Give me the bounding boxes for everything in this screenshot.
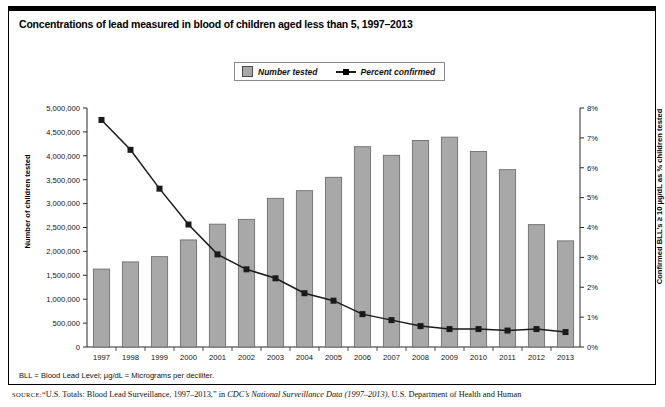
plot-area: 0500,0001,000,0001,500,0002,000,0002,500… bbox=[9, 7, 657, 386]
line-marker bbox=[505, 328, 511, 334]
svg-text:6%: 6% bbox=[587, 164, 598, 173]
bar bbox=[296, 191, 312, 347]
bar bbox=[151, 257, 167, 347]
svg-text:2,500,000: 2,500,000 bbox=[46, 223, 80, 232]
x-axis-tick-label: 2007 bbox=[383, 353, 400, 362]
y-axis-left-title: Number of children tested bbox=[23, 132, 32, 272]
line-marker bbox=[244, 266, 250, 272]
svg-text:500,000: 500,000 bbox=[53, 319, 80, 328]
figure-container: Concentrations of lead measured in blood… bbox=[8, 6, 656, 385]
bar bbox=[180, 240, 196, 347]
bar bbox=[267, 198, 283, 347]
svg-text:3,000,000: 3,000,000 bbox=[46, 199, 80, 208]
x-axis-tick-label: 1997 bbox=[93, 353, 110, 362]
svg-text:4,000,000: 4,000,000 bbox=[46, 152, 80, 161]
svg-text:2%: 2% bbox=[587, 283, 598, 292]
line-marker bbox=[534, 326, 540, 332]
svg-text:1,000,000: 1,000,000 bbox=[46, 295, 80, 304]
x-axis-tick-label: 2004 bbox=[296, 353, 313, 362]
x-axis-tick-label: 2009 bbox=[441, 353, 458, 362]
bar bbox=[441, 137, 457, 347]
x-axis-tick-label: 2003 bbox=[267, 353, 284, 362]
svg-text:5,000,000: 5,000,000 bbox=[46, 104, 80, 113]
svg-text:4%: 4% bbox=[587, 223, 598, 232]
svg-text:5%: 5% bbox=[587, 193, 598, 202]
x-axis-tick-label: 2010 bbox=[470, 353, 487, 362]
bar bbox=[93, 269, 109, 347]
line-marker bbox=[447, 326, 453, 332]
footnote-text: BLL = Blood Lead Level; µg/dL = Microgra… bbox=[19, 371, 214, 380]
svg-text:7%: 7% bbox=[587, 134, 598, 143]
x-axis-tick-label: 2011 bbox=[499, 353, 515, 362]
line-marker bbox=[302, 290, 308, 296]
svg-text:0%: 0% bbox=[587, 343, 598, 352]
source-part2: , U.S. Department of Health and Human bbox=[387, 390, 521, 399]
svg-text:2,000,000: 2,000,000 bbox=[46, 247, 80, 256]
line-marker bbox=[563, 329, 569, 335]
line-marker bbox=[186, 222, 192, 228]
bar bbox=[325, 177, 341, 347]
x-axis-tick-label: 2012 bbox=[528, 353, 545, 362]
bar bbox=[238, 219, 254, 347]
source-italic: CDC’s National Surveillance Data (1997–2… bbox=[227, 390, 387, 399]
line-marker bbox=[157, 186, 163, 192]
svg-text:8%: 8% bbox=[587, 104, 598, 113]
x-axis-tick-label: 2013 bbox=[557, 353, 574, 362]
x-axis-tick-label: 2001 bbox=[209, 353, 226, 362]
svg-text:3,500,000: 3,500,000 bbox=[46, 176, 80, 185]
line-marker bbox=[331, 298, 337, 304]
bar bbox=[209, 224, 225, 347]
svg-text:4,500,000: 4,500,000 bbox=[46, 128, 80, 137]
line-marker bbox=[476, 326, 482, 332]
x-axis-tick-label: 1999 bbox=[151, 353, 168, 362]
svg-text:0: 0 bbox=[76, 343, 80, 352]
bar bbox=[470, 151, 486, 347]
x-axis-tick-label: 2002 bbox=[238, 353, 255, 362]
x-axis-tick-label: 2005 bbox=[325, 353, 342, 362]
bar bbox=[412, 141, 428, 347]
line-marker bbox=[215, 251, 221, 257]
y-axis-right-title: Confirmed BLL's ≥ 10 µg/dL as % children… bbox=[655, 107, 664, 287]
x-axis-tick-label: 2006 bbox=[354, 353, 371, 362]
source-citation: SOURCE:“U.S. Totals: Blood Lead Surveill… bbox=[12, 390, 521, 399]
line-marker bbox=[389, 317, 395, 323]
x-axis-tick-label: 2000 bbox=[180, 353, 197, 362]
line-marker bbox=[360, 311, 366, 317]
x-axis-tick-label: 1998 bbox=[122, 353, 139, 362]
line-marker bbox=[273, 275, 279, 281]
svg-text:1,500,000: 1,500,000 bbox=[46, 271, 80, 280]
line-marker bbox=[99, 117, 105, 123]
line-marker bbox=[128, 147, 134, 153]
source-keyword: SOURCE: bbox=[12, 391, 42, 398]
bar bbox=[499, 170, 515, 347]
svg-text:1%: 1% bbox=[587, 313, 598, 322]
source-part1: “U.S. Totals: Blood Lead Surveillance, 1… bbox=[42, 390, 227, 399]
line-marker bbox=[418, 323, 424, 329]
x-axis-tick-label: 2008 bbox=[412, 353, 429, 362]
chart-svg: 0500,0001,000,0001,500,0002,000,0002,500… bbox=[9, 7, 657, 386]
svg-text:3%: 3% bbox=[587, 253, 598, 262]
bar bbox=[122, 262, 138, 347]
